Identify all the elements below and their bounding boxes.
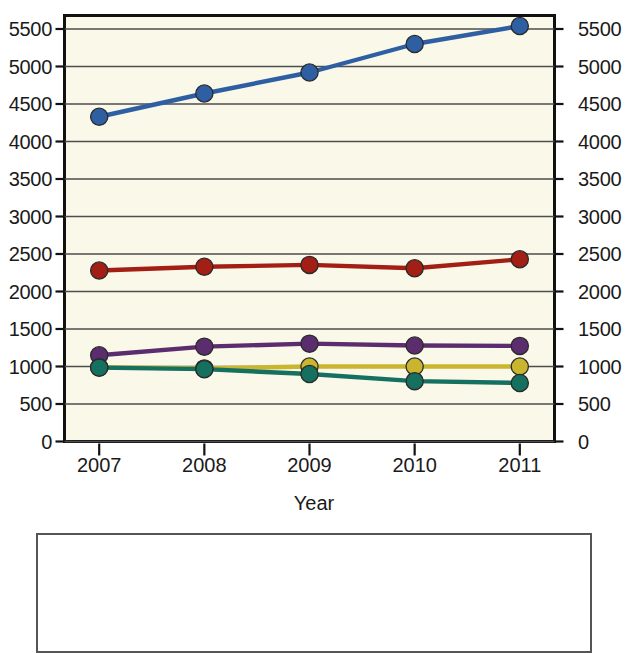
data-point-series-teal: [301, 365, 318, 382]
data-point-series-teal: [511, 374, 528, 391]
data-point-series-teal: [406, 373, 423, 390]
right-axis-ticks: [555, 29, 564, 442]
data-point-series-purple: [406, 337, 423, 354]
data-point-series-blue: [196, 85, 213, 102]
x-axis-tick-label: 2010: [392, 454, 437, 476]
x-axis-tick-label: 2011: [498, 454, 541, 476]
x-axis-tick-label: 2008: [182, 454, 227, 476]
data-point-series-red: [511, 251, 528, 268]
data-point-series-blue: [511, 17, 528, 34]
data-point-series-blue: [91, 108, 108, 125]
x-axis-title: Year: [0, 492, 628, 514]
data-point-series-blue: [406, 35, 423, 52]
data-point-series-purple: [511, 337, 528, 354]
left-axis-ticks: [56, 29, 65, 442]
data-point-series-red: [406, 260, 423, 277]
data-point-series-red: [196, 258, 213, 275]
chart-legend: [36, 533, 592, 653]
data-point-series-red: [91, 262, 108, 279]
data-point-series-yellow: [511, 358, 528, 375]
x-axis-tick-label: 2007: [77, 454, 122, 476]
data-point-series-red: [301, 256, 318, 273]
data-point-series-teal: [196, 361, 213, 378]
series-markers: [91, 17, 529, 391]
data-point-series-blue: [301, 64, 318, 81]
data-point-series-purple: [301, 335, 318, 352]
data-point-series-purple: [196, 338, 213, 355]
x-axis-tick-label: 2009: [287, 454, 332, 476]
data-point-series-teal: [91, 359, 108, 376]
